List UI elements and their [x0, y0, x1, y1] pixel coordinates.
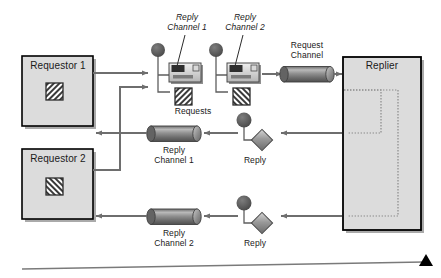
- reply-channel-2-callout-label: Reply Channel 2: [211, 12, 279, 32]
- reply-message-2-label: Reply: [233, 238, 277, 248]
- reply-channel-2-cylinder[interactable]: [147, 209, 201, 225]
- diagram-svg: [0, 0, 441, 278]
- requestor-1-label: Requestor 1: [24, 60, 92, 72]
- request-channel-label: Request Channel: [277, 40, 337, 60]
- diamond-message-icon: [251, 129, 272, 150]
- message-node-circle: [151, 43, 165, 57]
- diagram-canvas: Requestor 1 Requestor 2 Replier Reply Ch…: [0, 0, 441, 278]
- footer-triangle-icon: [419, 254, 433, 266]
- request-message-1[interactable]: [151, 43, 203, 105]
- arrow-requestor2-to-request2: [93, 87, 148, 170]
- callout-line-reply-channel-1: [177, 35, 185, 66]
- hatch-backward-icon: [233, 88, 250, 105]
- hatch-backward-icon: [46, 178, 63, 195]
- requests-label: Requests: [161, 106, 225, 116]
- reply-channel-1-cylinder[interactable]: [147, 126, 201, 142]
- callout-line-reply-channel-2: [235, 35, 243, 66]
- replier-node[interactable]: [343, 57, 424, 233]
- reply-message-1-label: Reply: [233, 155, 277, 165]
- diamond-message-icon: [251, 212, 272, 233]
- request-channel-cylinder[interactable]: [280, 66, 334, 82]
- reply-message-1[interactable]: [237, 113, 273, 151]
- replier-label: Replier: [345, 60, 419, 72]
- message-node-circle: [237, 196, 252, 211]
- footer-rule: [22, 262, 424, 269]
- hatch-forward-icon: [175, 88, 192, 105]
- reply-channel-2-label: Reply Channel 2: [144, 228, 204, 248]
- hatch-forward-icon: [46, 83, 63, 100]
- requestor-2-label: Requestor 2: [24, 153, 92, 165]
- reply-channel-1-label: Reply Channel 1: [144, 145, 204, 165]
- message-node-circle: [209, 43, 223, 57]
- reply-message-2[interactable]: [237, 196, 273, 234]
- message-node-circle: [237, 113, 252, 128]
- request-message-2[interactable]: [209, 43, 261, 105]
